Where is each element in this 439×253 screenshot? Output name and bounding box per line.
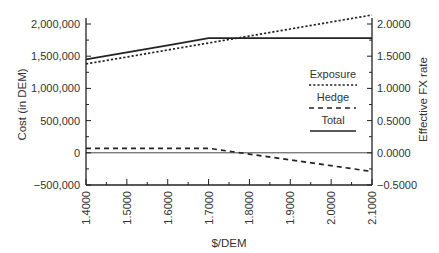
y2-tick-label: −0.5000 [377, 179, 417, 191]
legend-label-exposure: Exposure [310, 68, 356, 80]
y2-tick-label: 2.0000 [377, 18, 411, 30]
y-tick-label: −500,000 [34, 179, 80, 191]
y2-tick-label: 1.0000 [377, 82, 411, 94]
x-tick-label: 2.0000 [325, 191, 337, 225]
legend-label-total: Total [321, 114, 344, 126]
legend: Exposure Hedge Total [309, 68, 357, 131]
x-tick-label: 1.8000 [243, 191, 255, 225]
y2-tick-label: 1.5000 [377, 50, 411, 62]
y2-axis-title: Effective FX rate [417, 57, 429, 142]
axes: 2,000,0001,500,0001,000,000500,0000−500,… [16, 18, 429, 249]
y2-tick-label: 0.0000 [377, 147, 411, 159]
chart: 2,000,0001,500,0001,000,000500,0000−500,… [0, 0, 439, 253]
x-tick-label: 1.6000 [162, 191, 174, 225]
x-tick-label: 1.5000 [121, 191, 133, 225]
x-tick-label: 1.4000 [80, 191, 92, 225]
x-tick-label: 2.1000 [366, 191, 378, 225]
x-axis-title: $/DEM [211, 237, 246, 249]
y-tick-label: 2,000,000 [31, 18, 80, 30]
y2-tick-label: 0.5000 [377, 115, 411, 127]
legend-label-hedge: Hedge [317, 91, 349, 103]
x-tick-label: 1.9000 [284, 191, 296, 225]
y-axis-title: Cost (in DEM) [16, 68, 28, 140]
series-line-hedge [86, 148, 372, 171]
y-tick-label: 0 [74, 147, 80, 159]
series-line-exposure [86, 15, 372, 64]
y-tick-label: 1,000,000 [31, 82, 80, 94]
y-tick-label: 1,500,000 [31, 50, 80, 62]
x-tick-label: 1.7000 [203, 191, 215, 225]
y-tick-label: 500,000 [40, 115, 80, 127]
